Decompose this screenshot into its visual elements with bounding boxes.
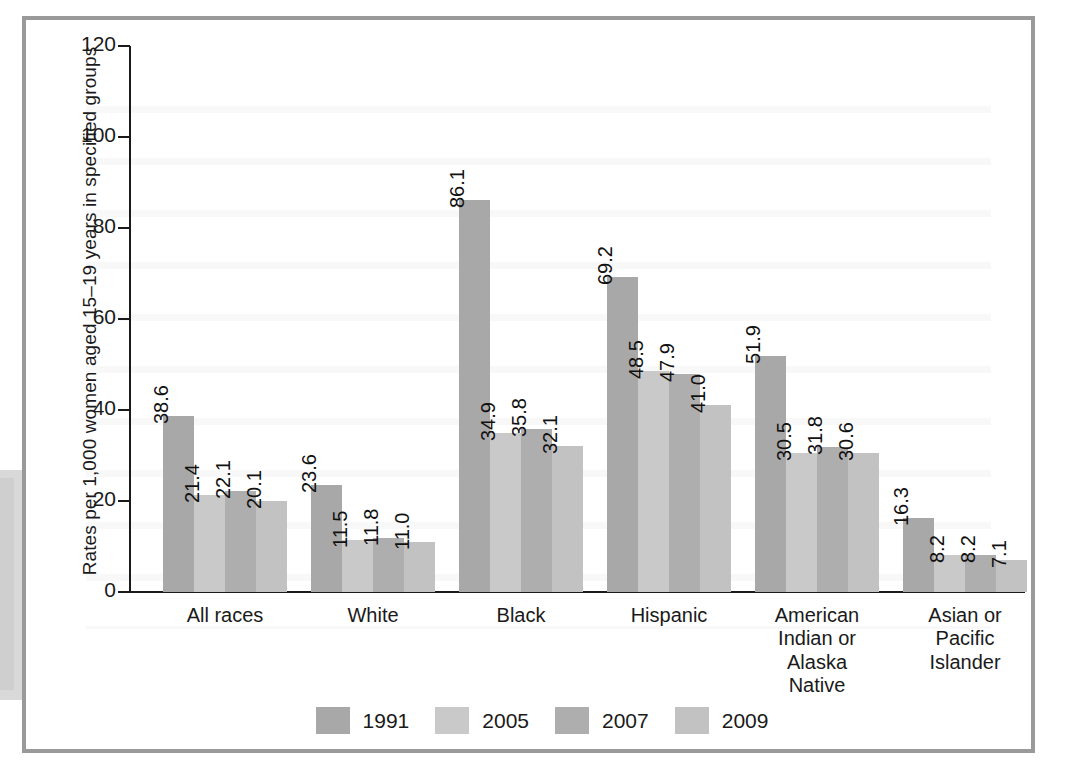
legend-swatch: [435, 707, 469, 734]
bar-value-label: 16.3: [889, 487, 912, 526]
bar[interactable]: 20.1: [256, 501, 287, 592]
bar-value-label: 86.1: [445, 169, 468, 208]
legend-item[interactable]: 2007: [555, 707, 649, 734]
bar-value-label: 21.4: [180, 464, 203, 503]
legend-swatch: [555, 707, 589, 734]
legend-label: 2009: [722, 709, 769, 733]
bar-value-label: 34.9: [476, 402, 499, 441]
y-axis-tick: [118, 409, 130, 411]
bar[interactable]: 34.9: [490, 433, 521, 592]
bar[interactable]: 30.5: [786, 453, 817, 592]
bar[interactable]: 69.2: [607, 277, 638, 592]
bar[interactable]: 7.1: [996, 560, 1027, 592]
y-axis-tick-label: 100: [46, 123, 116, 147]
bar[interactable]: 31.8: [817, 447, 848, 592]
bar[interactable]: 38.6: [163, 416, 194, 592]
bar-group-bars: 23.611.511.811.0: [311, 46, 435, 592]
bar-group: 69.248.547.941.0: [607, 46, 731, 592]
bar[interactable]: 48.5: [638, 371, 669, 592]
y-axis-tick-label: 20: [46, 487, 116, 511]
bar[interactable]: 11.0: [404, 542, 435, 592]
legend-item[interactable]: 2005: [435, 707, 529, 734]
y-axis-tick: [118, 318, 130, 320]
bar-chart: Rates per 1,000 women aged 15–19 years i…: [0, 0, 1084, 776]
bar[interactable]: 21.4: [194, 495, 225, 592]
y-axis-tick: [118, 500, 130, 502]
bar-group-bars: 38.621.422.120.1: [163, 46, 287, 592]
bar-value-label: 69.2: [593, 246, 616, 285]
chart-legend: 1991200520072009: [0, 707, 1084, 734]
bar-value-label: 7.1: [988, 540, 1011, 568]
bar-value-label: 11.5: [329, 510, 352, 547]
bar-value-label: 20.1: [242, 470, 265, 509]
bar[interactable]: 51.9: [755, 356, 786, 592]
bar-group: 86.134.935.832.1: [459, 46, 583, 592]
y-axis-tick-label: 120: [46, 32, 116, 56]
bar-value-label: 11.0: [391, 513, 414, 550]
legend-swatch: [675, 707, 709, 734]
y-axis-tick-label: 80: [46, 214, 116, 238]
y-axis-tick: [118, 45, 130, 47]
bar-group: 16.38.28.27.1: [903, 46, 1027, 592]
plot-area: 38.621.422.120.123.611.511.811.086.134.9…: [131, 46, 1025, 592]
y-axis-tick-label: 40: [46, 396, 116, 420]
bar[interactable]: 41.0: [700, 405, 731, 592]
y-axis-tick: [118, 136, 130, 138]
bar-value-label: 30.6: [834, 422, 857, 461]
bar-value-label: 47.9: [655, 343, 678, 382]
bar[interactable]: 11.5: [342, 540, 373, 592]
bar-group: 38.621.422.120.1: [163, 46, 287, 592]
bar[interactable]: 30.6: [848, 453, 879, 592]
y-axis-tick: [118, 591, 130, 593]
bar-value-label: 8.2: [957, 535, 980, 563]
bar-value-label: 35.8: [507, 398, 530, 437]
bar-value-label: 22.1: [211, 461, 234, 500]
legend-label: 1991: [363, 709, 410, 733]
legend-item[interactable]: 1991: [316, 707, 410, 734]
bar-value-label: 51.9: [741, 325, 764, 364]
bar-value-label: 30.5: [772, 422, 795, 461]
bar-value-label: 8.2: [926, 535, 949, 563]
bar-value-label: 31.8: [803, 416, 826, 455]
bar-value-label: 38.6: [149, 385, 172, 424]
bar-group: 23.611.511.811.0: [311, 46, 435, 592]
page-root: Rates per 1,000 women aged 15–19 years i…: [0, 0, 1084, 776]
bar-group-bars: 51.930.531.830.6: [755, 46, 879, 592]
x-axis-category-label: Asian or Pacific Islander: [855, 604, 1075, 674]
bar-value-label: 32.1: [538, 415, 561, 454]
y-axis-tick-label: 0: [46, 578, 116, 602]
bar-group-bars: 86.134.935.832.1: [459, 46, 583, 592]
bar-value-label: 48.5: [624, 340, 647, 379]
y-axis-tick-label: 60: [46, 305, 116, 329]
bar-group-bars: 16.38.28.27.1: [903, 46, 1027, 592]
y-axis-tick: [118, 227, 130, 229]
bar-value-label: 23.6: [297, 454, 320, 493]
legend-label: 2007: [602, 709, 649, 733]
legend-label: 2005: [482, 709, 529, 733]
bar[interactable]: 32.1: [552, 446, 583, 592]
bar-group-bars: 69.248.547.941.0: [607, 46, 731, 592]
bar-value-label: 11.8: [360, 509, 383, 546]
legend-swatch: [316, 707, 350, 734]
bar-group: 51.930.531.830.6: [755, 46, 879, 592]
bar[interactable]: 86.1: [459, 200, 490, 592]
bar-value-label: 41.0: [686, 375, 709, 414]
legend-item[interactable]: 2009: [675, 707, 769, 734]
